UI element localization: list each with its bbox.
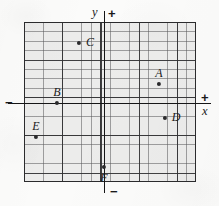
point-label-c: C	[86, 36, 94, 48]
y-axis-negative-sign: −	[110, 185, 118, 198]
point-label-e: E	[32, 120, 39, 132]
x-axis-negative-sign: −	[5, 96, 13, 109]
x-axis-line	[8, 103, 211, 105]
point-label-f: F	[100, 172, 107, 184]
point-label-a: A	[155, 67, 162, 79]
y-axis-positive-sign: +	[108, 7, 116, 20]
x-axis-positive-sign: +	[201, 91, 209, 104]
point-label-d: D	[172, 111, 181, 123]
y-axis-label: y	[92, 6, 98, 19]
x-axis-label: x	[202, 105, 208, 118]
coordinate-grid-figure: y + + x − − ABCDEF	[0, 0, 219, 206]
point-label-b: B	[53, 86, 60, 98]
